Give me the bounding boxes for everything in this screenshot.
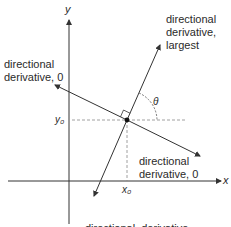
label-smallest-line1: directional derivative, bbox=[85, 222, 191, 227]
theta-label: θ bbox=[153, 95, 158, 108]
label-largest-line2: derivative, bbox=[166, 26, 216, 39]
label-largest: directional derivative, largest bbox=[166, 13, 216, 52]
directional-derivative-diagram: y x y₀ x₀ θ directional derivative, larg… bbox=[0, 0, 231, 227]
label-smallest: directional derivative, smallest bbox=[85, 196, 191, 227]
label-zero-right-line1: directional bbox=[139, 155, 198, 168]
gradient-direction-largest bbox=[127, 45, 160, 120]
label-largest-line1: directional bbox=[166, 13, 216, 26]
label-largest-line3: largest bbox=[166, 39, 216, 52]
label-zero-right-line2: derivative, 0 bbox=[139, 168, 198, 181]
zero-direction-right bbox=[127, 120, 200, 156]
zero-direction-left bbox=[55, 85, 127, 120]
label-zero-left-line1: directional bbox=[4, 58, 63, 71]
point-x0-y0 bbox=[125, 118, 130, 123]
label-zero-right: directional derivative, 0 bbox=[139, 155, 198, 181]
x-axis-label: x bbox=[223, 174, 229, 187]
label-zero-left-line2: derivative, 0 bbox=[4, 71, 63, 84]
label-zero-left: directional derivative, 0 bbox=[4, 58, 63, 84]
y0-label: y₀ bbox=[55, 113, 64, 126]
y-axis-label: y bbox=[65, 3, 71, 16]
x0-label: x₀ bbox=[122, 183, 131, 196]
